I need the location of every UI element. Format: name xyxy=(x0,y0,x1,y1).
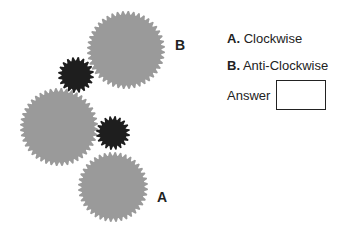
gear-B-icon xyxy=(87,11,165,89)
gear-A-icon xyxy=(78,152,148,222)
answer-label: Answer xyxy=(227,88,270,103)
option-a: A. Clockwise xyxy=(227,31,302,46)
option-a-key: A. xyxy=(227,31,240,46)
answer-box[interactable] xyxy=(276,80,326,110)
gear-b-label: B xyxy=(175,37,185,53)
gear-a-label: A xyxy=(157,189,167,205)
option-b-text: Anti-Clockwise xyxy=(243,58,328,73)
gear-left-icon xyxy=(20,88,98,166)
gear-small-2-icon xyxy=(96,116,130,150)
option-b-key: B. xyxy=(227,58,240,73)
option-b: B. Anti-Clockwise xyxy=(227,58,328,73)
option-a-text: Clockwise xyxy=(244,31,303,46)
gear-small-1-icon xyxy=(58,57,94,93)
